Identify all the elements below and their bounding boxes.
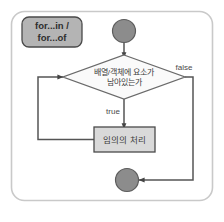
decision-node-label-line1: 배열/객체에 요소가: [94, 67, 155, 77]
title-tag-line2: for...of: [37, 32, 67, 43]
flowchart-canvas: 배열/객체에 요소가 남아있는가 임의의 처리 true false for..…: [0, 0, 224, 222]
title-tag-line1: for...in /: [35, 20, 69, 31]
start-node: [113, 20, 136, 43]
edge-label-true: true: [106, 107, 120, 116]
edge-label-false: false: [176, 63, 193, 72]
process-node-label: 임의의 처리: [103, 135, 145, 145]
flowchart-diagram: 배열/객체에 요소가 남아있는가 임의의 처리 true false for..…: [0, 0, 224, 222]
decision-node-label-line2: 남아있는가: [107, 77, 143, 87]
end-node: [116, 169, 139, 192]
